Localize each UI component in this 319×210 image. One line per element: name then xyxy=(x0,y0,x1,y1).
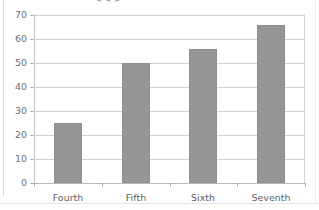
y-axis-tick-label: 0 xyxy=(21,178,27,188)
x-axis-category-label: Fifth xyxy=(126,192,146,203)
figure-border-right xyxy=(315,0,316,203)
y-axis-tick-label: 10 xyxy=(15,154,27,164)
x-axis-tick xyxy=(237,183,238,187)
x-axis-category-label: Sixth xyxy=(191,192,215,203)
x-axis-tick xyxy=(170,183,171,187)
y-axis-tick xyxy=(30,111,34,112)
y-axis-tick xyxy=(30,87,34,88)
x-axis-tick xyxy=(34,183,35,187)
bar xyxy=(122,63,150,183)
x-axis-tick xyxy=(102,183,103,187)
bar xyxy=(257,25,285,183)
figure-border-left xyxy=(3,0,4,196)
y-axis-tick xyxy=(30,63,34,64)
y-axis-tick-label: 60 xyxy=(15,34,27,44)
gridline xyxy=(34,15,305,16)
y-axis-tick xyxy=(30,135,34,136)
y-axis-tick-label: 50 xyxy=(15,58,27,68)
bar xyxy=(189,49,217,183)
y-axis-tick-label: 70 xyxy=(15,10,27,20)
figure-border-bottom xyxy=(0,203,319,204)
plot-area: 010203040506070 FourthFifthSixthSeventh xyxy=(34,15,305,183)
y-axis-tick xyxy=(30,39,34,40)
x-axis-category-label: Fourth xyxy=(53,192,84,203)
bar xyxy=(54,123,82,183)
cropped-chart-title: g g p xyxy=(96,0,236,2)
y-axis-tick xyxy=(30,159,34,160)
x-axis-category-label: Seventh xyxy=(251,192,290,203)
bar-chart-figure: g g p 010203040506070 FourthFifthSixthSe… xyxy=(0,0,319,210)
y-axis-tick xyxy=(30,15,34,16)
x-axis-tick xyxy=(305,183,306,187)
y-axis-tick-label: 30 xyxy=(15,106,27,116)
y-axis-tick-label: 40 xyxy=(15,82,27,92)
y-axis-tick-label: 20 xyxy=(15,130,27,140)
